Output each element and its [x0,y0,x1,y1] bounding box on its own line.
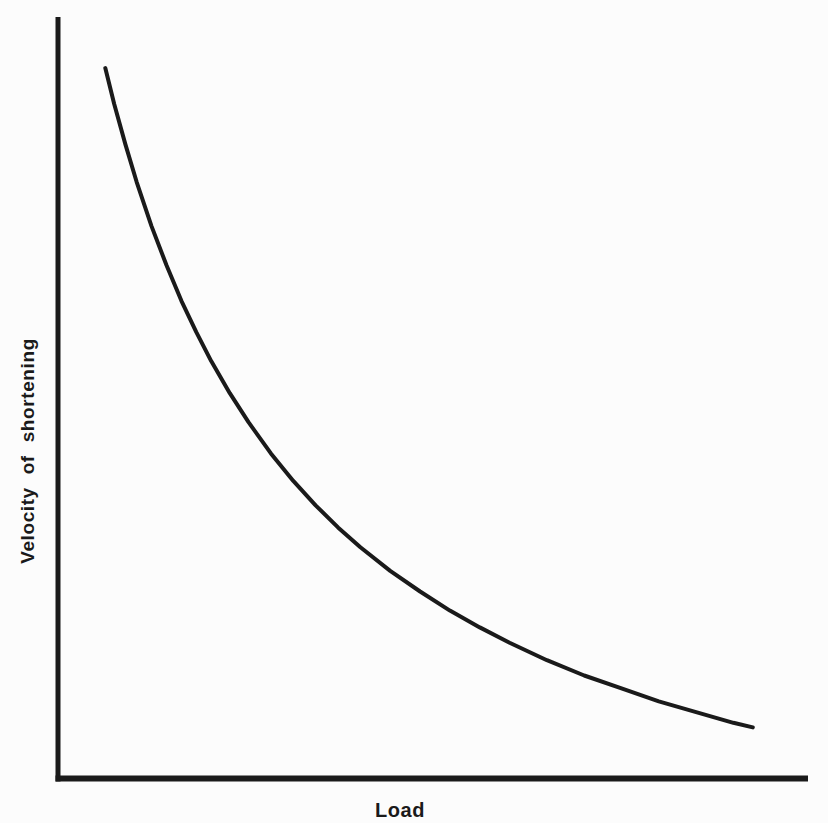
x-axis-label: Load [375,799,425,822]
y-axis-label: Velocity of shortening [17,338,39,564]
chart-canvas [0,0,828,823]
force-velocity-figure: Velocity of shortening Load [0,0,828,823]
force-velocity-curve [105,68,753,727]
